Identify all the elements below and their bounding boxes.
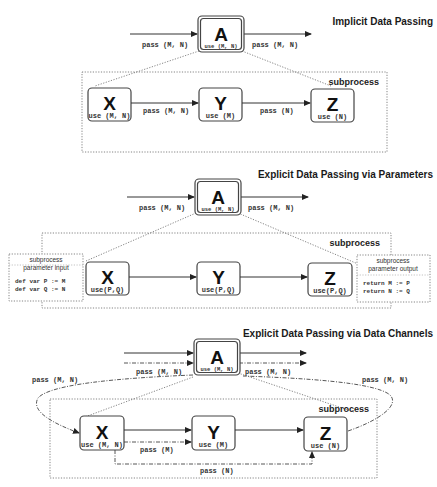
parent-input-label: pass (M, N) bbox=[139, 204, 185, 212]
section-title: Explicit Data Passing via Parameters bbox=[258, 169, 434, 180]
node-letter: Z bbox=[324, 268, 336, 289]
node-use: use (M, N) bbox=[204, 43, 237, 50]
node-z[interactable]: Z use (N) bbox=[311, 89, 354, 122]
node-y[interactable]: Y use(P,Q) bbox=[197, 262, 240, 295]
param-output-title: subprocess bbox=[376, 257, 410, 265]
node-letter: X bbox=[101, 267, 114, 288]
section-implicit: Implicit Data Passing pass (M, N) pass (… bbox=[82, 16, 433, 152]
node-use: use (M, N) bbox=[201, 206, 234, 213]
node-z[interactable]: Z use(P,Q) bbox=[308, 263, 352, 296]
parent-output-label: pass (M, N) bbox=[245, 368, 291, 376]
subprocess-label: subprocess bbox=[318, 404, 369, 414]
section-data-channels: Explicit Data Passing via Data Channels … bbox=[32, 328, 433, 478]
node-use: use (M, N) bbox=[88, 112, 130, 120]
node-letter: Z bbox=[320, 423, 332, 444]
param-output-line: return M := P bbox=[363, 280, 410, 287]
channel-x-z-label: pass (N) bbox=[200, 467, 234, 475]
node-letter: A bbox=[211, 187, 225, 208]
param-input-line: def var Q := N bbox=[15, 286, 66, 293]
node-a[interactable]: A use (M, N) bbox=[195, 179, 241, 215]
node-use: use (M, N) bbox=[81, 441, 123, 449]
section-parameters: Explicit Data Passing via Parameters pas… bbox=[9, 169, 433, 308]
node-letter: Y bbox=[212, 267, 225, 288]
node-x[interactable]: X use (M, N) bbox=[88, 88, 131, 121]
node-use: use(P,Q) bbox=[91, 286, 125, 294]
expand-line-right bbox=[242, 51, 331, 86]
node-x[interactable]: X use(P,Q) bbox=[86, 262, 129, 295]
param-output-subtitle: parameter output bbox=[368, 265, 418, 273]
param-input-subtitle: parameter input bbox=[23, 264, 69, 272]
parameter-input-box: subprocess parameter input def var P := … bbox=[9, 254, 83, 301]
node-a[interactable]: A use (M, N) bbox=[198, 16, 244, 52]
node-x[interactable]: X use (M, N) bbox=[80, 416, 124, 450]
parent-output-label: pass (M, N) bbox=[248, 204, 294, 212]
node-letter: A bbox=[210, 347, 224, 368]
node-use: use (N) bbox=[318, 113, 347, 121]
expand-line-left bbox=[86, 213, 196, 261]
param-input-line: def var P := M bbox=[15, 278, 66, 285]
node-letter: Y bbox=[214, 93, 227, 114]
node-letter: X bbox=[96, 422, 109, 443]
node-use: use (N) bbox=[311, 442, 340, 450]
node-letter: Y bbox=[207, 422, 220, 443]
node-use: use(P,Q) bbox=[313, 287, 347, 295]
loop-out-label: pass (M, N) bbox=[362, 376, 408, 384]
param-output-line: return N := Q bbox=[363, 288, 410, 295]
node-use: use (M) bbox=[199, 441, 228, 449]
node-z[interactable]: Z use (N) bbox=[304, 417, 347, 451]
node-letter: A bbox=[214, 24, 228, 45]
node-use: use (M, N) bbox=[200, 366, 233, 373]
param-input-title: subprocess bbox=[29, 256, 63, 264]
edge-x-y-label: pass (M, N) bbox=[143, 107, 189, 115]
parent-input-label: pass (M, N) bbox=[142, 41, 188, 49]
subprocess-label: subprocess bbox=[329, 238, 380, 248]
node-y[interactable]: Y use (M) bbox=[199, 88, 242, 121]
loop-in-label: pass (M, N) bbox=[32, 376, 78, 384]
data-passing-diagram: Implicit Data Passing pass (M, N) pass (… bbox=[0, 0, 437, 487]
node-use: use(P,Q) bbox=[202, 286, 236, 294]
section-title: Explicit Data Passing via Data Channels bbox=[243, 328, 434, 339]
parent-input-label: pass (M, N) bbox=[136, 368, 182, 376]
section-title: Implicit Data Passing bbox=[332, 16, 433, 27]
expand-line-left bbox=[95, 51, 199, 86]
node-y[interactable]: Y use (M) bbox=[192, 416, 235, 450]
expand-line-left bbox=[82, 377, 193, 418]
node-a[interactable]: A use (M, N) bbox=[194, 339, 240, 375]
channel-x-y-label: pass (M) bbox=[140, 446, 174, 454]
subprocess-label: subprocess bbox=[328, 77, 379, 87]
edge-y-z-label: pass (N) bbox=[260, 107, 294, 115]
parameter-output-box: subprocess parameter output return M := … bbox=[357, 255, 430, 302]
node-use: use (M) bbox=[206, 112, 235, 120]
node-letter: Z bbox=[327, 94, 339, 115]
parent-output-label: pass (M, N) bbox=[252, 41, 298, 49]
node-letter: X bbox=[103, 93, 116, 114]
